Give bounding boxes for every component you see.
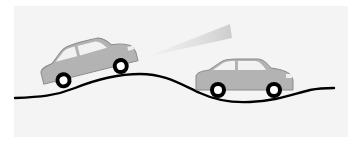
rear-wheel [210, 82, 226, 98]
headlight [286, 74, 292, 78]
car-level [196, 59, 293, 98]
front-wheel [266, 82, 282, 98]
headlight-diagram [0, 0, 360, 147]
headlight-beam [146, 24, 232, 57]
